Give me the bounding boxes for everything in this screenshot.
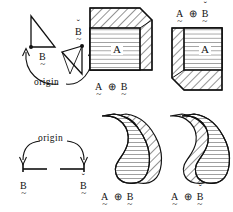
oplus-icon: ⊕ — [182, 191, 194, 202]
label-a-oplus-bcheck-bottom-right: A ⊕ B — [171, 192, 204, 202]
operand-a: A — [176, 9, 184, 19]
morphology-diagram: B B origin A A ⊕ B A A ⊕ B origin B B A … — [0, 0, 233, 212]
panel-top-middle-dilation — [90, 8, 152, 70]
operand-b-check: B — [197, 192, 204, 202]
oplus-icon: ⊕ — [106, 81, 118, 92]
oplus-icon: ⊕ — [112, 191, 124, 202]
segment-b-check — [60, 164, 84, 172]
label-a-oplus-bcheck-top-right: A ⊕ B — [176, 9, 209, 19]
panel-bottom-right-dilation — [170, 114, 229, 183]
label-set-a-top-right: A — [199, 44, 211, 55]
label-a-oplus-b-bottom-middle: A ⊕ B — [101, 192, 134, 202]
label-b-segment: B — [20, 181, 27, 191]
panel-top-left-structuring-elements — [23, 16, 96, 84]
triangle-b — [29, 16, 55, 49]
label-b-triangle-text: B — [39, 52, 46, 62]
label-b-check-segment-text: B — [80, 181, 87, 191]
panel-top-right-dilation — [172, 28, 222, 90]
origin-dot-b — [29, 45, 33, 49]
origin-dot-b-check — [80, 44, 84, 48]
label-b-segment-text: B — [20, 181, 27, 191]
label-b-triangle: B — [39, 52, 46, 62]
triangle-b-check — [62, 44, 84, 74]
label-b-check-triangle: B — [75, 27, 82, 37]
operand-a: A — [171, 192, 179, 202]
origin-arc-bottom — [20, 141, 88, 165]
panel-bottom-middle-dilation — [102, 114, 161, 183]
panel-bottom-left-structuring-elements — [20, 141, 88, 172]
oplus-icon: ⊕ — [187, 8, 199, 19]
label-a-oplus-b-top-middle: A ⊕ B — [95, 82, 128, 92]
triangle-b-outline — [31, 16, 55, 47]
operand-a: A — [101, 192, 109, 202]
operand-a: A — [95, 82, 103, 92]
label-b-check-segment: B — [80, 181, 87, 191]
operand-b: B — [121, 82, 128, 92]
operand-b-check: B — [202, 9, 209, 19]
label-b-check-triangle-text: B — [75, 27, 82, 37]
diagram-canvas — [0, 0, 233, 212]
label-origin-top: origin — [34, 78, 59, 88]
segment-b — [23, 164, 47, 172]
operand-b: B — [127, 192, 134, 202]
label-origin-bottom: origin — [38, 134, 63, 144]
label-set-a-top-middle: A — [111, 44, 123, 55]
